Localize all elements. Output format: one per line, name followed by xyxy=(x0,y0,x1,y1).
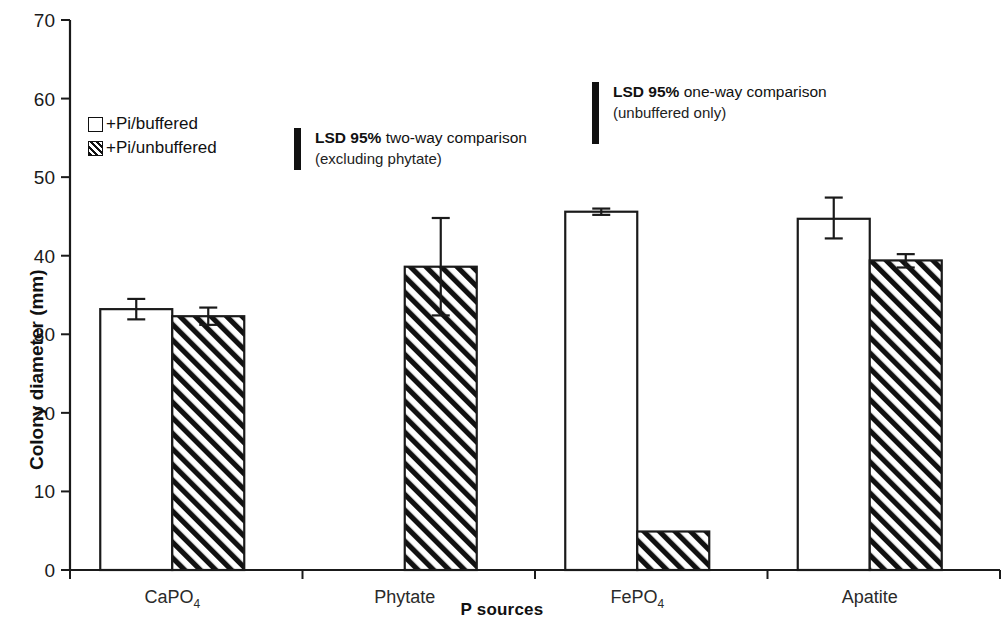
annotation-one-way-bold: LSD 95% xyxy=(613,83,679,100)
annotation-lsd-two-way: LSD 95% two-way comparison (excluding ph… xyxy=(294,128,527,170)
bars-group xyxy=(100,212,942,570)
legend-label-unbuffered: +Pi/unbuffered xyxy=(106,138,217,158)
lsd-marker-two-way-icon xyxy=(294,128,301,170)
y-tick-label: 40 xyxy=(34,246,55,267)
bar xyxy=(565,212,637,570)
lsd-marker-one-way-icon xyxy=(592,82,599,144)
bar xyxy=(100,309,172,570)
annotation-two-way-bold: LSD 95% xyxy=(315,129,381,146)
annotation-one-way-text: LSD 95% one-way comparison (unbuffered o… xyxy=(613,82,827,123)
annotation-two-way-line2: (excluding phytate) xyxy=(315,149,527,169)
error-bars-group xyxy=(127,198,915,325)
bar xyxy=(172,316,244,570)
annotation-one-way-line1: LSD 95% one-way comparison xyxy=(613,82,827,103)
annotation-one-way-rest: one-way comparison xyxy=(679,83,826,100)
y-tick-label: 10 xyxy=(34,481,55,502)
bar xyxy=(870,260,942,570)
legend-item-buffered: +Pi/buffered xyxy=(88,112,217,136)
legend-label-buffered: +Pi/buffered xyxy=(106,114,198,134)
legend-swatch-hatched-square xyxy=(88,141,103,156)
legend-swatch-white-square xyxy=(88,117,103,132)
annotation-two-way-rest: two-way comparison xyxy=(381,129,527,146)
annotation-one-way-line2: (unbuffered only) xyxy=(613,103,827,123)
x-axis-ticks xyxy=(70,570,1000,579)
y-tick-label: 70 xyxy=(34,10,55,31)
annotation-two-way-text: LSD 95% two-way comparison (excluding ph… xyxy=(315,128,527,169)
bar xyxy=(798,219,870,570)
bar-chart: 010203040506070 CaPO4PhytateFePO4Apatite… xyxy=(0,0,1004,627)
x-axis-title: P sources xyxy=(0,600,1004,620)
annotation-two-way-line1: LSD 95% two-way comparison xyxy=(315,128,527,149)
y-tick-label: 60 xyxy=(34,89,55,110)
y-axis-title: Colony diameter (mm) xyxy=(26,269,48,470)
y-tick-label: 50 xyxy=(34,167,55,188)
plot-area: 010203040506070 CaPO4PhytateFePO4Apatite xyxy=(0,0,1004,627)
legend-item-unbuffered: +Pi/unbuffered xyxy=(88,136,217,160)
bar xyxy=(637,532,709,571)
legend: +Pi/buffered +Pi/unbuffered xyxy=(88,112,217,160)
annotation-lsd-one-way: LSD 95% one-way comparison (unbuffered o… xyxy=(592,82,827,144)
y-tick-label: 0 xyxy=(44,560,55,581)
